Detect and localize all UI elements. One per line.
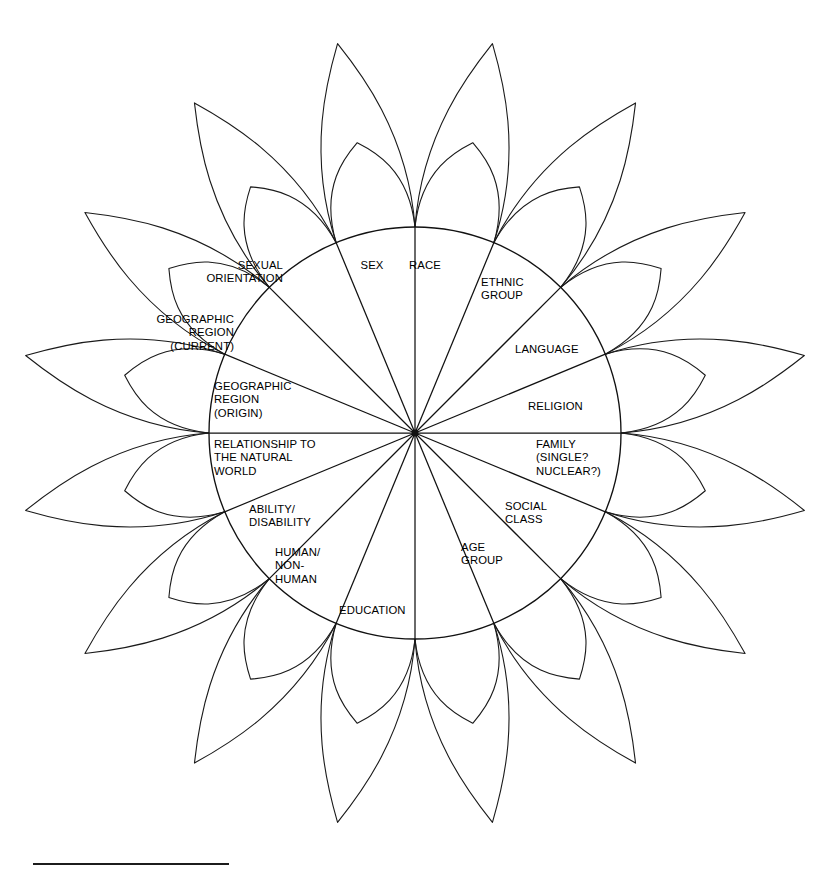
sector-label-family: FAMILY (SINGLE? NUCLEAR?): [536, 438, 601, 478]
sector-label-human-non-human: HUMAN/ NON- HUMAN: [275, 546, 320, 586]
sector-label-relationship-natural-world: RELATIONSHIP TO THE NATURAL WORLD: [214, 438, 316, 478]
sector-label-sexual-orientation: SEXUAL ORIENTATION: [206, 259, 283, 286]
spoke-202.5: [336, 433, 415, 623]
sector-label-age-group: AGE GROUP: [461, 541, 503, 568]
sector-label-ability-disability: ABILITY/ DISABILITY: [249, 503, 311, 530]
long-petal-2: [561, 212, 745, 354]
footer-rule: [33, 863, 229, 865]
long-petal-1: [494, 103, 636, 287]
long-petal-5: [561, 512, 745, 654]
long-petal-10: [85, 512, 269, 654]
spoke-157.5: [415, 433, 494, 623]
sector-label-social-class: SOCIAL CLASS: [505, 500, 547, 527]
long-petal-9: [194, 579, 336, 763]
long-petal-7: [415, 623, 509, 822]
long-petal-4: [605, 433, 804, 527]
figure-canvas: SEXRACEETHNIC GROUPLANGUAGERELIGIONFAMIL…: [0, 0, 838, 872]
long-petal-11: [26, 433, 225, 527]
hub-center-dot: [412, 430, 419, 437]
sector-label-education: EDUCATION: [339, 604, 406, 617]
sector-label-geographic-region-current: GEOGRAPHIC REGION (CURRENT): [156, 313, 234, 353]
long-petal-0: [415, 44, 509, 243]
sector-label-language: LANGUAGE: [515, 343, 579, 356]
long-petal-15: [321, 44, 415, 243]
long-petal-6: [494, 579, 636, 763]
sector-label-sex: SEX: [361, 259, 384, 272]
sector-label-race: RACE: [409, 259, 441, 272]
spoke-67.5: [415, 354, 605, 433]
long-petal-3: [605, 339, 804, 433]
sector-label-geographic-region-origin: GEOGRAPHIC REGION (ORIGIN): [214, 380, 292, 420]
long-petal-8: [321, 623, 415, 822]
sector-label-ethnic-group: ETHNIC GROUP: [481, 276, 524, 303]
petal-wheel-graphic: [0, 0, 838, 872]
sector-label-religion: RELIGION: [528, 400, 583, 413]
